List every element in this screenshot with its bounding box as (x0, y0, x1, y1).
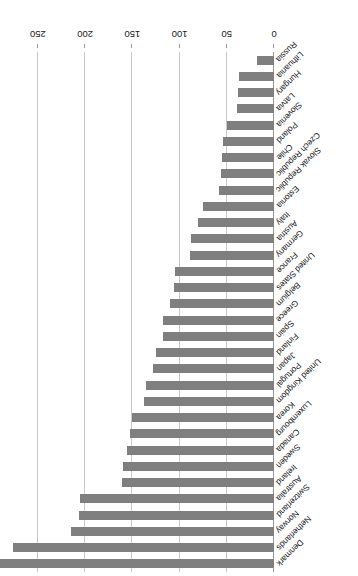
bar-fill (153, 364, 274, 373)
bar-fill (146, 381, 274, 390)
bar-fill (219, 186, 274, 195)
bar (239, 72, 274, 81)
tick-mark-150 (131, 44, 132, 48)
bar (223, 137, 274, 146)
bar-fill (71, 527, 274, 536)
bar (203, 202, 274, 211)
gridline-250 (37, 52, 38, 572)
bar-fill (203, 202, 274, 211)
bar-fill (130, 429, 274, 438)
bar-fill (175, 267, 274, 276)
bar (219, 186, 274, 195)
tick-mark-0 (273, 44, 274, 48)
bar-fill (221, 169, 274, 178)
bar-fill (132, 413, 274, 422)
bar (191, 234, 274, 243)
tick-label-150: 150 (124, 29, 140, 40)
bar-fill (239, 72, 274, 81)
bar (71, 527, 274, 536)
bar (198, 218, 274, 227)
plot-area (0, 52, 274, 572)
bar-fill (127, 446, 274, 455)
bar-chart: DenmarkNetherlandsNorwaySwitzerlandAustr… (0, 0, 358, 576)
bar-fill (222, 153, 274, 162)
bar-fill (238, 88, 274, 97)
bar-fill (237, 104, 274, 113)
bar (144, 397, 274, 406)
bar-fill (174, 283, 274, 292)
bar (175, 267, 274, 276)
bar-fill (144, 397, 274, 406)
bar-fill (163, 332, 274, 341)
tick-mark-250 (37, 44, 38, 48)
tick-mark-200 (84, 44, 85, 48)
bar (80, 494, 274, 503)
bar (237, 104, 274, 113)
bar (0, 559, 274, 568)
tick-label-200: 200 (77, 29, 93, 40)
bar-fill (198, 218, 274, 227)
bar-fill (191, 234, 274, 243)
tick-mark-100 (179, 44, 180, 48)
bar-fill (257, 56, 274, 65)
tick-mark-50 (226, 44, 227, 48)
bar (221, 169, 274, 178)
tick-label-0: 0 (271, 29, 276, 40)
bar-fill (80, 494, 274, 503)
bar-fill (79, 511, 274, 520)
bar-fill (0, 559, 274, 568)
bar (227, 121, 274, 130)
bar (163, 316, 274, 325)
bar (146, 381, 274, 390)
bar (174, 283, 274, 292)
bar (123, 462, 274, 471)
bar (170, 299, 274, 308)
bar-fill (13, 543, 274, 552)
bar-fill (223, 137, 274, 146)
bar (156, 348, 274, 357)
bar (127, 446, 274, 455)
bar (238, 88, 274, 97)
bar (190, 251, 274, 260)
bar-fill (122, 478, 274, 487)
chart-figure: DenmarkNetherlandsNorwaySwitzerlandAustr… (0, 0, 358, 576)
bar (153, 364, 274, 373)
tick-label-100: 100 (172, 29, 188, 40)
bar-fill (190, 251, 274, 260)
bar (163, 332, 274, 341)
bar (222, 153, 274, 162)
bar-fill (156, 348, 274, 357)
bar (257, 56, 274, 65)
bar (79, 511, 274, 520)
bar (130, 429, 274, 438)
value-axis-ticks: 050100150200250 (0, 8, 274, 48)
bar-fill (123, 462, 274, 471)
tick-label-250: 250 (30, 29, 46, 40)
bar-fill (170, 299, 274, 308)
bar-fill (163, 316, 274, 325)
bar-fill (227, 121, 274, 130)
bar (13, 543, 274, 552)
bar (122, 478, 274, 487)
bar (132, 413, 274, 422)
tick-label-50: 50 (221, 29, 232, 40)
